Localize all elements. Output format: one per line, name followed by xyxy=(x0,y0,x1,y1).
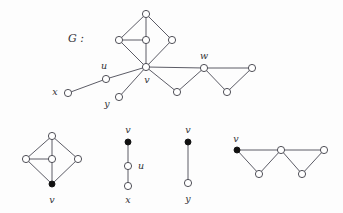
graph-name-label: G : xyxy=(68,32,84,45)
graph-node-filled xyxy=(49,181,55,187)
graph-node-open xyxy=(255,170,262,177)
graph-node-open xyxy=(115,93,122,100)
graph-edge xyxy=(122,43,144,65)
vertex-label: v xyxy=(125,124,131,135)
graph-node-open xyxy=(200,64,207,71)
graph-node-open xyxy=(22,155,29,162)
graph-node-open xyxy=(298,170,305,177)
graph-edge xyxy=(29,161,50,181)
graph-node-open xyxy=(173,88,180,95)
graph-node-open xyxy=(320,146,327,153)
graph-edge xyxy=(149,17,170,38)
graph-node-open xyxy=(142,10,149,17)
graph-figure: vuxywG :vvuxvyv xyxy=(0,0,343,213)
graph-node-open xyxy=(115,36,122,43)
vertex-label: v xyxy=(144,74,150,85)
graph-node-open xyxy=(277,146,284,153)
graph-node-open xyxy=(48,132,55,139)
vertex-label: v xyxy=(185,124,191,135)
graph-edge xyxy=(149,69,174,89)
graph-node-open xyxy=(184,179,191,186)
graph-edge xyxy=(180,70,202,89)
graph-node-open xyxy=(223,88,230,95)
graph-node-open xyxy=(142,63,149,70)
graph-edge xyxy=(29,138,50,156)
graph-edge xyxy=(206,71,224,90)
graph-edge xyxy=(150,67,201,68)
graph-edge xyxy=(230,70,250,89)
graph-node-filled xyxy=(185,139,191,145)
graph-edge xyxy=(261,153,278,172)
vertex-label: y xyxy=(184,193,191,204)
graph-node-filled xyxy=(234,147,240,153)
vertex-label: w xyxy=(200,50,208,61)
graph-node-open xyxy=(124,162,131,169)
vertex-label: u xyxy=(101,60,107,71)
graph-node-filled xyxy=(125,139,131,145)
labels-layer: vuxywG :vvuxvyv xyxy=(49,32,239,205)
graph-edge xyxy=(54,161,75,181)
vertex-label: v xyxy=(233,133,239,144)
graph-edge xyxy=(239,152,257,171)
vertex-label: u xyxy=(138,160,144,171)
vertex-label: v xyxy=(49,194,55,205)
graph-edge xyxy=(148,43,169,65)
vertex-label: y xyxy=(103,98,110,109)
graph-edge xyxy=(283,153,299,172)
graph-node-open xyxy=(142,36,149,43)
graph-node-open xyxy=(124,182,131,189)
graph-node-open xyxy=(248,64,255,71)
graph-edge xyxy=(55,138,76,156)
graph-edge xyxy=(122,16,144,37)
graph-node-open xyxy=(74,155,81,162)
graph-node-open xyxy=(64,89,71,96)
graph-canvas: vuxywG :vvuxvyv xyxy=(0,0,343,213)
graph-edge xyxy=(71,80,102,92)
graph-node-open xyxy=(48,155,55,162)
graph-node-open xyxy=(168,36,175,43)
graph-edge xyxy=(304,153,321,172)
vertex-label: x xyxy=(125,194,131,205)
graph-node-open xyxy=(102,75,109,82)
vertex-label: x xyxy=(52,86,58,97)
